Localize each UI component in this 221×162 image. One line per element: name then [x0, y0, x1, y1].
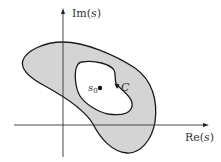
- imag-axis-arrow-icon: [61, 8, 65, 14]
- imag-axis-label: Im(s): [72, 7, 101, 20]
- real-axis-label: Re(s): [185, 131, 214, 144]
- complex-plane-diagram: Im(s) Re(s) s0 C: [0, 0, 221, 162]
- diagram-svg: Im(s) Re(s) s0 C: [0, 0, 221, 162]
- point-s0: [98, 86, 102, 90]
- contour-c-label: C: [121, 81, 130, 94]
- real-axis-arrow-icon: [203, 123, 209, 127]
